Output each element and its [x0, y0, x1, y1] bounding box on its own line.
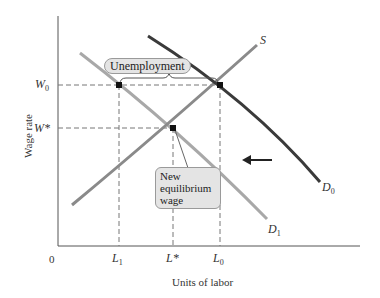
point-w0-l0	[217, 82, 223, 88]
x-tick-l0: L0	[213, 251, 224, 267]
unemployment-label: Unemployment	[104, 58, 191, 74]
x-axis-title: Units of labor	[172, 276, 233, 288]
y-axis-title: Wage rate	[22, 106, 34, 166]
y-tick-wstar: W*	[34, 121, 50, 136]
left-arrow-icon	[242, 155, 272, 165]
point-w0-l1	[116, 82, 122, 88]
supply-label: S	[260, 33, 266, 48]
callout-line-2: equilibrium	[160, 182, 216, 194]
origin-label: 0	[49, 253, 55, 265]
x-tick-lstar: L*	[166, 251, 179, 266]
unemployment-text: Unemployment	[110, 59, 185, 73]
callout-line-3: wage	[160, 194, 216, 206]
x-tick-l1: L1	[112, 251, 123, 267]
d1-label: D1	[268, 222, 281, 238]
callout-line-1: New	[160, 170, 216, 182]
dashed-guides	[58, 85, 220, 246]
d0-label: D0	[322, 180, 335, 196]
point-equilibrium	[170, 125, 176, 131]
labor-market-chart	[0, 0, 380, 298]
y-tick-w0: W0	[35, 77, 49, 93]
new-equilibrium-callout: New equilibrium wage	[155, 167, 221, 209]
